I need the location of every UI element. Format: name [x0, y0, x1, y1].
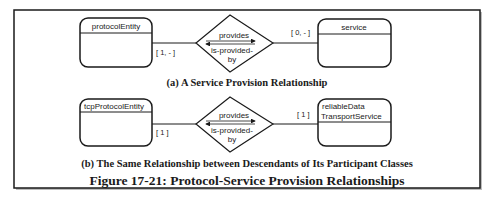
class-name-line2: TransportService	[321, 112, 382, 121]
reverse-label-line2: by	[228, 135, 236, 144]
class-name: service	[341, 23, 367, 32]
reverse-label-line2: by	[228, 55, 236, 64]
multiplicity-left: [ 1 ]	[156, 128, 169, 137]
forward-label: provides	[219, 111, 249, 120]
class-name-line1: reliableData	[322, 102, 365, 111]
reverse-label-line1: is-provided-	[211, 46, 253, 55]
caption-a: (a) A Service Provision Relationship	[167, 77, 328, 89]
forward-label: provides	[219, 31, 249, 40]
panel-b: tcpProtocolEntity [ 1 ] provides is-prov…	[80, 97, 413, 170]
caption-b: (b) The Same Relationship between Descen…	[81, 158, 412, 170]
multiplicity-left: [ 1, - ]	[156, 48, 175, 57]
figure-title: Figure 17-21: Protocol-Service Provision…	[90, 173, 405, 188]
class-box-reliable-data-transport-service[interactable]: reliableData TransportService	[318, 99, 391, 146]
class-box-tcp-protocol-entity[interactable]: tcpProtocolEntity	[80, 99, 152, 146]
multiplicity-right: [ 0, - ]	[291, 28, 310, 37]
class-box-service[interactable]: service	[318, 19, 391, 67]
multiplicity-right: [ 1 ]	[297, 110, 310, 119]
reverse-label-line1: is-provided-	[211, 126, 253, 135]
class-name: protocolEntity	[92, 22, 140, 31]
class-name: tcpProtocolEntity	[84, 102, 144, 111]
diagram-canvas: protocolEntity [ 1, - ] provides is-prov…	[0, 0, 495, 201]
class-box-protocol-entity[interactable]: protocolEntity	[80, 18, 152, 67]
